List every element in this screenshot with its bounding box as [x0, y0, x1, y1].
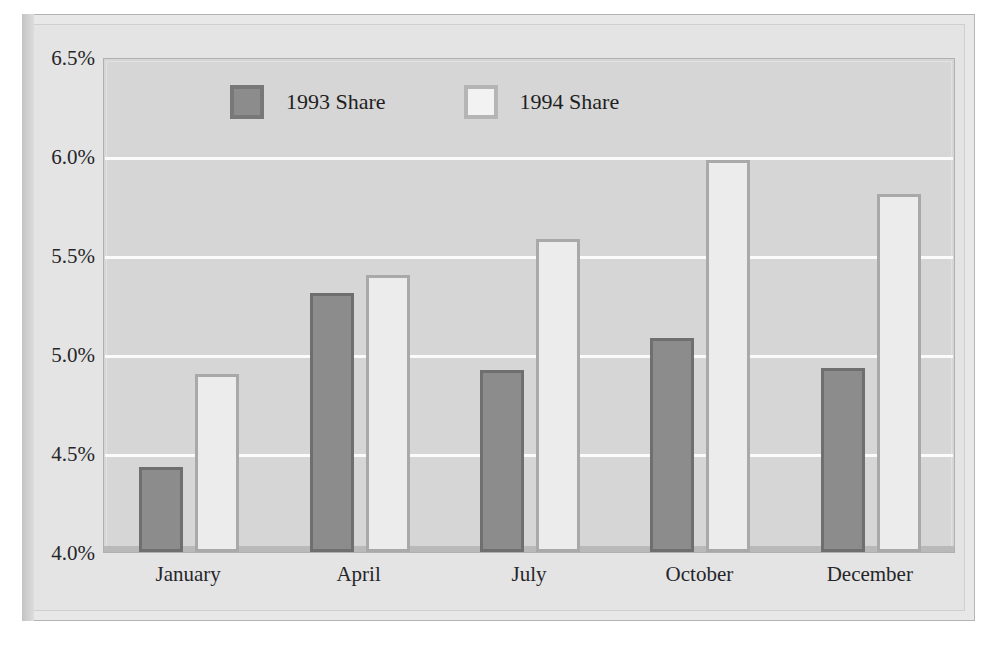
y-axis: 4.0%4.5%5.0%5.5%6.0%6.5%	[0, 58, 95, 553]
legend-entry: 1994 Share	[464, 85, 620, 119]
legend-swatch-icon	[230, 85, 264, 119]
bar	[650, 338, 694, 552]
legend-entry: 1993 Share	[230, 85, 386, 119]
x-axis-tick-label: July	[511, 562, 546, 587]
y-axis-tick-label: 6.0%	[9, 145, 95, 170]
bar	[706, 160, 750, 552]
y-axis-tick-label: 6.5%	[9, 46, 95, 71]
y-axis-tick-label: 5.0%	[9, 343, 95, 368]
chart-legend: 1993 Share1994 Share	[230, 80, 619, 124]
gridline	[105, 256, 953, 259]
legend-label: 1994 Share	[520, 89, 620, 115]
x-axis-tick-label: January	[156, 562, 221, 587]
x-axis-tick-label: April	[336, 562, 380, 587]
plot-area	[103, 58, 955, 553]
bar	[877, 194, 921, 552]
bar	[480, 370, 524, 552]
y-axis-tick-label: 4.5%	[9, 442, 95, 467]
bar	[821, 368, 865, 552]
bar	[310, 293, 354, 552]
legend-label: 1993 Share	[286, 89, 386, 115]
bar	[139, 467, 183, 552]
gridline	[105, 355, 953, 358]
x-axis-tick-label: October	[666, 562, 734, 587]
y-axis-tick-label: 5.5%	[9, 244, 95, 269]
gridline	[105, 157, 953, 160]
x-axis: JanuaryAprilJulyOctoberDecember	[103, 556, 955, 596]
x-axis-tick-label: December	[827, 562, 913, 587]
legend-swatch-icon	[464, 85, 498, 119]
bar	[536, 239, 580, 552]
bar	[366, 275, 410, 552]
y-axis-tick-label: 4.0%	[9, 541, 95, 566]
bar	[195, 374, 239, 552]
figure-root: 4.0%4.5%5.0%5.5%6.0%6.5% JanuaryAprilJul…	[0, 0, 1007, 658]
